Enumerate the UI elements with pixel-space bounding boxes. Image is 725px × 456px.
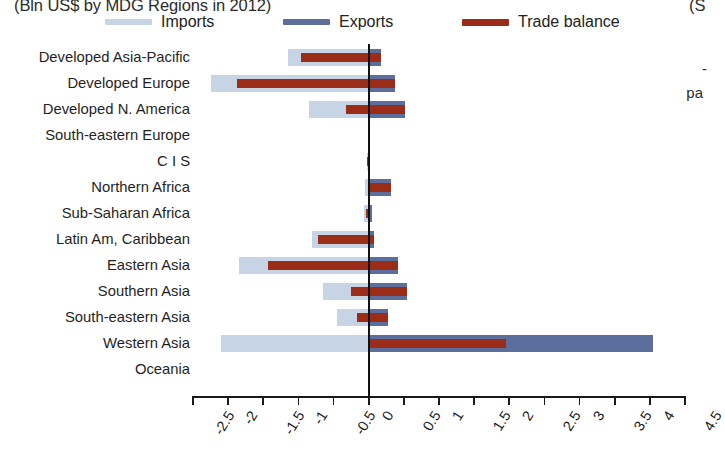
legend-item-balance[interactable]: Trade balance <box>462 14 620 30</box>
x-axis-tick <box>333 396 335 405</box>
chart-title-left: (Bln US$ by MDG Regions in 2012) <box>14 0 271 15</box>
x-axis-tick <box>614 396 616 405</box>
x-axis-tick-label: -1 <box>310 408 330 427</box>
x-axis-tick <box>579 396 581 405</box>
bar-trade-balance <box>357 313 389 322</box>
x-axis-tick <box>262 396 264 405</box>
legend-swatch-balance-icon <box>462 19 509 26</box>
legend-label: Trade balance <box>518 14 620 30</box>
bar-trade-balance <box>318 235 374 244</box>
plot-area: Developed Asia-PacificDeveloped EuropeDe… <box>0 44 705 394</box>
bar-trade-balance <box>268 261 398 270</box>
x-axis-tick-label: 0 <box>379 408 397 423</box>
x-axis-tick-label: 1 <box>449 408 467 423</box>
x-axis-tick-label: 3.5 <box>630 408 654 434</box>
x-axis: -2.5-2-1.5-1-0.500.511.522.533.544.5 <box>0 396 705 456</box>
legend-item-imports[interactable]: Imports <box>105 14 214 30</box>
bar-trade-balance <box>369 183 391 192</box>
x-axis-tick <box>192 396 194 405</box>
x-axis-tick-label: 0.5 <box>419 408 443 434</box>
chart-legend: ImportsExportsTrade balance <box>0 14 705 40</box>
x-axis-tick <box>298 396 300 405</box>
legend-item-exports[interactable]: Exports <box>283 14 393 30</box>
bar-trade-balance <box>351 287 407 296</box>
x-axis-tick <box>544 396 546 405</box>
x-axis-tick-label: -2 <box>240 408 260 427</box>
x-axis-tick-label: -0.5 <box>351 408 378 438</box>
legend-label: Imports <box>161 14 214 30</box>
legend-swatch-exports-icon <box>283 19 330 25</box>
x-axis-tick-label: 4.5 <box>700 408 724 434</box>
x-axis-tick-label: 4 <box>660 408 678 423</box>
zero-baseline <box>368 44 370 398</box>
x-axis-tick-label: 3 <box>589 408 607 423</box>
legend-label: Exports <box>339 14 393 30</box>
x-axis-tick-label: 2.5 <box>560 408 584 434</box>
legend-swatch-imports-icon <box>105 19 152 25</box>
bar-trade-balance <box>346 105 406 114</box>
bar-imports <box>221 335 369 352</box>
x-axis-tick-label: 1.5 <box>490 408 514 434</box>
x-axis-tick <box>438 396 440 405</box>
chart-title-right: (S <box>689 0 706 15</box>
x-axis-tick-label: -2.5 <box>211 408 238 438</box>
bars-area <box>0 44 705 394</box>
x-axis-tick <box>649 396 651 405</box>
x-axis-tick <box>227 396 229 405</box>
x-axis-tick <box>403 396 405 405</box>
x-axis-tick <box>684 396 686 405</box>
x-axis-tick <box>508 396 510 405</box>
x-axis-tick-label: 2 <box>519 408 537 423</box>
bar-trade-balance <box>237 79 395 88</box>
bar-trade-balance <box>369 339 506 348</box>
x-axis-tick-label: -1.5 <box>281 408 308 438</box>
x-axis-tick <box>473 396 475 405</box>
